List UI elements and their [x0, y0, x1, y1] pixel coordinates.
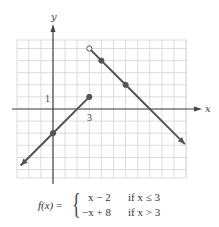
case-1-expression: x − 2	[88, 191, 128, 203]
x-axis-label: x	[205, 103, 211, 114]
y-axis-label: y	[50, 11, 57, 22]
case-2-expression: −x + 8	[82, 206, 128, 218]
function-graph: x y 1 3	[0, 0, 219, 190]
case-2-condition: if x > 3	[128, 206, 160, 218]
series-line-2	[89, 49, 185, 145]
piecewise-formula: f(x) = { x − 2if x ≤ 3 −x + 8if x > 3	[38, 190, 218, 222]
formula-lhs: f(x) =	[38, 199, 62, 211]
closed-point	[50, 131, 55, 136]
x-axis-arrow-icon	[194, 107, 202, 112]
y-tick-label-1: 1	[45, 93, 50, 104]
equals-sign: =	[53, 199, 62, 211]
closed-point	[99, 58, 104, 63]
function-name: f(x)	[38, 199, 53, 211]
open-point	[87, 46, 92, 51]
case-1-condition: if x ≤ 3	[128, 191, 160, 203]
x-tick-label-3: 3	[87, 112, 92, 123]
closed-point	[87, 94, 92, 99]
closed-point	[123, 82, 128, 87]
series	[21, 46, 185, 166]
case-1: x − 2if x ≤ 3	[88, 191, 160, 203]
brace: {	[72, 188, 81, 218]
case-2: −x + 8if x > 3	[82, 206, 160, 218]
y-axis-arrow-icon	[51, 24, 56, 32]
